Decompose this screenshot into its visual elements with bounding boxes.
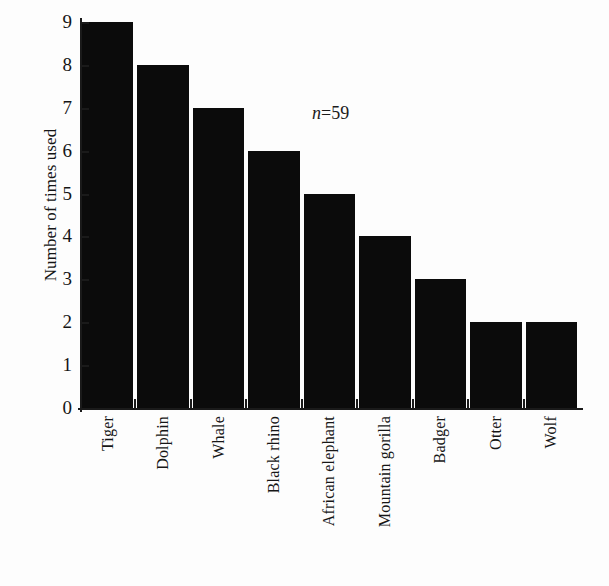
bar <box>359 236 410 408</box>
bar <box>415 279 466 408</box>
bar <box>137 65 188 408</box>
bar <box>470 322 521 408</box>
y-axis-tick-label: 9 <box>50 12 72 31</box>
x-axis-label-slot: Black rhino <box>246 412 301 586</box>
x-axis-tick-mark <box>467 399 469 408</box>
y-axis-tick-label: 3 <box>50 269 72 288</box>
y-axis-tick-mark <box>82 108 89 110</box>
bar <box>248 151 299 408</box>
y-axis-tick-mark <box>82 279 89 281</box>
bar <box>304 194 355 408</box>
x-axis-category-label: Black rhino <box>265 416 283 493</box>
y-axis-tick-label: 6 <box>50 141 72 160</box>
y-axis-tick-mark <box>82 22 89 24</box>
bar-chart-figure: Number of times used 0123456789 n=59 Tig… <box>0 0 609 586</box>
x-axis-category-label: Wolf <box>542 416 560 448</box>
y-axis-tick-label: 1 <box>50 355 72 374</box>
x-axis-category-labels: TigerDolphinWhaleBlack rhinoAfrican elep… <box>80 412 579 586</box>
x-axis-label-slot: Dolphin <box>135 412 190 586</box>
x-axis-tick-mark <box>190 399 192 408</box>
x-axis-category-label: Badger <box>431 416 449 463</box>
x-axis-tick-mark <box>412 399 414 408</box>
y-axis-tick-label: 5 <box>50 184 72 203</box>
y-axis-tick-mark <box>82 365 89 367</box>
x-axis-label-slot: Whale <box>191 412 246 586</box>
sample-size-annotation: n=59 <box>312 103 349 124</box>
x-axis-label-slot: Tiger <box>80 412 135 586</box>
x-axis-label-slot: African elephant <box>302 412 357 586</box>
y-axis-tick-label: 0 <box>50 398 72 417</box>
y-axis-tick-label: 4 <box>50 226 72 245</box>
y-axis-tick-label: 8 <box>50 55 72 74</box>
y-axis-tick-mark <box>82 65 89 67</box>
y-axis-tick-labels: 0123456789 <box>48 0 72 586</box>
x-axis-tick-mark <box>134 399 136 408</box>
y-axis-tick-mark <box>82 322 89 324</box>
sample-size-symbol: n <box>312 103 321 123</box>
bar-series <box>80 22 579 408</box>
x-axis-tick-mark <box>356 399 358 408</box>
sample-size-value: =59 <box>321 103 349 123</box>
bar <box>526 322 577 408</box>
y-axis-tick-label: 2 <box>50 312 72 331</box>
x-axis-tick-mark <box>245 399 247 408</box>
bar <box>193 108 244 408</box>
bar <box>82 22 133 408</box>
x-axis-label-slot: Mountain gorilla <box>357 412 412 586</box>
plot-area <box>80 22 579 408</box>
y-axis-tick-label: 7 <box>50 98 72 117</box>
x-axis-label-slot: Otter <box>468 412 523 586</box>
x-axis-category-label: Mountain gorilla <box>376 416 394 527</box>
x-axis-category-label: Otter <box>487 416 505 450</box>
x-axis-category-label: Tiger <box>99 416 117 451</box>
x-axis-label-slot: Wolf <box>524 412 579 586</box>
x-axis-category-label: African elephant <box>320 416 338 526</box>
x-axis-tick-mark <box>301 399 303 408</box>
x-axis-category-label: Whale <box>210 416 228 459</box>
x-axis-category-label: Dolphin <box>154 416 172 470</box>
x-axis-label-slot: Badger <box>413 412 468 586</box>
y-axis-tick-mark <box>82 236 89 238</box>
x-axis-tick-mark <box>523 399 525 408</box>
y-axis-tick-mark <box>82 194 89 196</box>
y-axis-tick-mark <box>82 151 89 153</box>
